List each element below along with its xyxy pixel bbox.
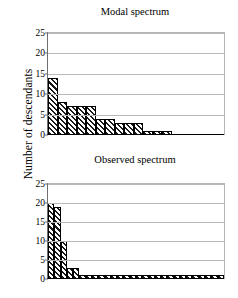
- bar: [48, 78, 58, 135]
- plot-area-modal-spectrum: 0510152025: [47, 32, 225, 135]
- gridline: [48, 115, 224, 116]
- chart-panel-observed-spectrum: Observed spectrum 0510152025: [0, 150, 238, 298]
- y-axis-tick-label: 5: [25, 110, 45, 120]
- figure-container: Number of descendants Modal spectrum 051…: [0, 0, 238, 298]
- y-axis-tick-label: 15: [25, 69, 45, 79]
- y-axis-tickmark: [45, 33, 48, 34]
- y-axis-tick-label: 0: [25, 274, 45, 284]
- x-axis-line: [47, 134, 224, 135]
- y-axis-tickmark: [45, 53, 48, 54]
- bar: [77, 106, 87, 135]
- y-axis-tick-label: 25: [25, 28, 45, 38]
- y-axis-tickmark: [45, 279, 48, 280]
- gridline: [48, 33, 224, 34]
- y-axis-tick-label: 10: [25, 89, 45, 99]
- plot-area-observed-spectrum: 0510152025: [47, 183, 225, 279]
- bar: [105, 119, 115, 135]
- y-axis-tickmark: [45, 203, 48, 204]
- y-axis-tickmark: [45, 135, 48, 136]
- gridline: [48, 74, 224, 75]
- y-axis-tickmark: [45, 73, 48, 74]
- gridline: [48, 184, 224, 185]
- bar: [58, 102, 68, 135]
- y-axis-tick-label: 0: [25, 130, 45, 140]
- gridline: [48, 53, 224, 54]
- gridline: [48, 260, 224, 261]
- y-axis-tickmark: [45, 184, 48, 185]
- y-axis-tick-label: 20: [25, 198, 45, 208]
- bar-series-observed-spectrum: [48, 184, 224, 279]
- bar: [86, 106, 96, 135]
- chart-panel-modal-spectrum: Modal spectrum 0510152025: [0, 0, 238, 150]
- y-axis-tickmark: [45, 94, 48, 95]
- y-axis-tickmark: [45, 222, 48, 223]
- bar: [67, 106, 77, 135]
- gridline: [48, 241, 224, 242]
- chart-title-modal-spectrum: Modal spectrum: [40, 6, 230, 17]
- gridline: [48, 203, 224, 204]
- bar: [96, 119, 106, 135]
- y-axis-tick-label: 25: [25, 179, 45, 189]
- chart-title-observed-spectrum: Observed spectrum: [40, 154, 230, 165]
- y-axis-tick-label: 15: [25, 217, 45, 227]
- gridline: [48, 94, 224, 95]
- y-axis-tickmark: [45, 114, 48, 115]
- y-axis-tick-label: 5: [25, 255, 45, 265]
- x-axis-line: [47, 278, 224, 279]
- y-axis-tick-label: 20: [25, 48, 45, 58]
- y-axis-tick-label: 10: [25, 236, 45, 246]
- bar-series-modal-spectrum: [48, 33, 224, 135]
- y-axis-tickmark: [45, 241, 48, 242]
- gridline: [48, 222, 224, 223]
- y-axis-tickmark: [45, 260, 48, 261]
